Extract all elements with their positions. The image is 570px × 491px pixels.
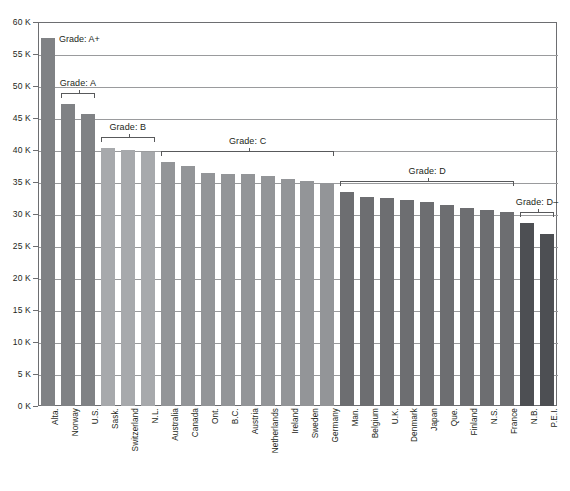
- y-axis-tick-label: 30 K: [13, 209, 31, 219]
- bar: [41, 38, 55, 406]
- x-axis-tick-label: P.E.I.: [550, 408, 559, 428]
- x-axis-tick-label: Switzerland: [131, 408, 140, 451]
- y-axis-tick-mark: [33, 406, 38, 407]
- grade-bracket: [520, 212, 554, 217]
- bar: [161, 162, 175, 406]
- x-axis-tick-label: Sweden: [311, 408, 320, 438]
- grade-bracket: [61, 93, 95, 98]
- x-axis-tick-label: U.K.: [391, 408, 400, 424]
- bar: [281, 179, 295, 406]
- x-axis-tick-label: Que.: [450, 408, 459, 426]
- bar-chart: 0 K5 K10 K15 K20 K25 K30 K35 K40 K45 K50…: [0, 0, 570, 491]
- x-axis-tick-label: Alta.: [51, 408, 60, 425]
- bar: [480, 210, 494, 406]
- bar: [340, 192, 354, 406]
- bar: [141, 152, 155, 406]
- y-axis-tick-label: 40 K: [13, 145, 31, 155]
- y-axis-tick-label: 60 K: [13, 17, 31, 27]
- bar: [201, 173, 215, 406]
- grade-bracket: [340, 181, 514, 186]
- bar: [241, 174, 255, 406]
- bar: [320, 183, 334, 406]
- x-axis-tick-label: Germany: [331, 408, 340, 442]
- bar: [420, 202, 434, 406]
- grade-bracket-tick: [428, 178, 429, 182]
- x-axis-tick-label: N.S.: [490, 408, 499, 424]
- x-axis-tick-label: Norway: [71, 408, 80, 436]
- grade-label: Grade: B: [109, 122, 146, 132]
- x-axis-tick-label: Denmark: [410, 408, 419, 442]
- x-axis-tick-label: Ont.: [211, 408, 220, 424]
- grade-label: Grade: D: [409, 166, 446, 176]
- bar: [101, 148, 115, 406]
- x-axis-labels: Alta.NorwayU.S.Sask.SwitzerlandN.L.Austr…: [38, 408, 557, 491]
- grade-label: Grade: A: [60, 78, 96, 88]
- x-axis-tick-label: Austria: [251, 408, 260, 434]
- bar: [380, 198, 394, 406]
- grade-bracket-tick: [129, 134, 130, 138]
- grade-bracket-tick: [249, 148, 250, 152]
- bar: [460, 208, 474, 406]
- x-axis-tick-label: Sask.: [111, 408, 120, 429]
- y-axis: 0 K5 K10 K15 K20 K25 K30 K35 K40 K45 K50…: [0, 0, 38, 430]
- bar: [440, 205, 454, 406]
- bar: [121, 150, 135, 406]
- bar: [300, 181, 314, 406]
- x-axis-tick-label: U.S.: [91, 408, 100, 424]
- y-axis-tick-label: 55 K: [13, 49, 31, 59]
- bar: [400, 200, 414, 406]
- y-axis-tick-label: 50 K: [13, 81, 31, 91]
- x-axis-tick-label: Australia: [171, 408, 180, 441]
- x-axis-tick-label: Canada: [191, 408, 200, 437]
- x-axis-tick-label: Finland: [470, 408, 479, 436]
- bar: [540, 234, 554, 406]
- bar: [181, 166, 195, 406]
- x-axis-tick-label: France: [510, 408, 519, 434]
- y-axis-tick-label: 5 K: [18, 369, 31, 379]
- y-axis-tick-label: 25 K: [13, 241, 31, 251]
- bar: [360, 197, 374, 406]
- y-axis-tick-label: 15 K: [13, 305, 31, 315]
- x-axis-tick-label: Belgium: [371, 408, 380, 438]
- x-axis-tick-label: N.B.: [530, 408, 539, 424]
- grade-bracket-tick: [79, 90, 80, 94]
- x-axis-tick-label: Ireland: [291, 408, 300, 434]
- y-axis-tick-label: 10 K: [13, 337, 31, 347]
- y-axis-tick-label: 20 K: [13, 273, 31, 283]
- grade-bracket: [161, 151, 335, 156]
- grade-bracket-tick: [538, 209, 539, 213]
- bar: [221, 174, 235, 406]
- x-axis-tick-label: B.C.: [231, 408, 240, 424]
- grade-label: Grade: C: [229, 136, 266, 146]
- x-axis-tick-label: Man.: [351, 408, 360, 427]
- bar: [520, 223, 534, 406]
- grade-label: Grade: A+: [59, 34, 100, 44]
- bar: [261, 176, 275, 406]
- bars-layer: [38, 22, 557, 406]
- y-axis-tick-label: 45 K: [13, 113, 31, 123]
- y-axis-tick-label: 0 K: [18, 401, 31, 411]
- x-axis-tick-label: Japan: [430, 408, 439, 431]
- x-axis-tick-label: Netherlands: [271, 408, 280, 453]
- x-axis-tick-label: N.L.: [151, 408, 160, 423]
- grade-bracket: [101, 137, 155, 142]
- y-axis-tick-label: 35 K: [13, 177, 31, 187]
- bar: [61, 104, 75, 406]
- bar: [81, 114, 95, 406]
- grade-label: Grade: D–: [516, 197, 558, 207]
- bar: [500, 212, 514, 406]
